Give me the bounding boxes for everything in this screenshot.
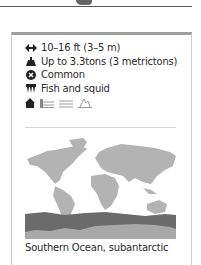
- divider: [0, 6, 192, 7]
- status-x-icon: [25, 70, 37, 80]
- habitat-icons: [25, 95, 177, 109]
- facts-list: 10–16 ft (3–5 m) Up to 3.3tons (3 metric…: [25, 41, 177, 109]
- divider: [25, 127, 176, 128]
- fact-weight: Up to 3.3tons (3 metrictons): [25, 55, 177, 69]
- open-ocean-icon: [59, 93, 73, 112]
- length-text: 10–16 ft (3–5 m): [41, 42, 120, 53]
- fact-length: 10–16 ft (3–5 m): [25, 41, 177, 55]
- ice-icon: [78, 93, 92, 112]
- fact-status: Common: [25, 68, 177, 82]
- home-icon: [25, 93, 35, 112]
- range-caption: Southern Ocean, subantarctic: [25, 242, 168, 253]
- status-text: Common: [41, 69, 85, 80]
- coast-icon: [40, 93, 54, 112]
- weight-icon: [25, 56, 37, 66]
- illustration-fragment: [76, 0, 92, 5]
- weight-text: Up to 3.3tons (3 metrictons): [41, 56, 177, 67]
- length-arrows-icon: [25, 43, 37, 53]
- range-map: [25, 132, 176, 239]
